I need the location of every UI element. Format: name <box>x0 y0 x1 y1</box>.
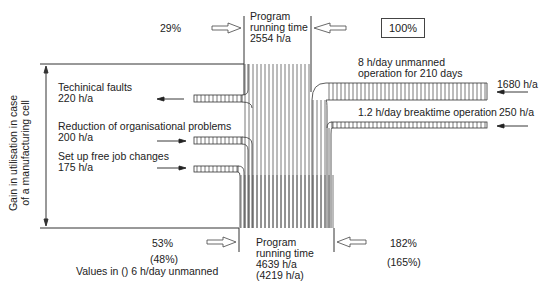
stream-unmanned-operation <box>312 83 487 228</box>
right-input-label-2: 1.2 h/day breaktime operation <box>358 106 497 118</box>
footnote: Values in () 6 h/day unmanned <box>76 265 218 277</box>
left-input-value-3: 175 h/a <box>58 161 93 173</box>
axis-label: Gain in utilisation in case of a manufac… <box>7 73 33 233</box>
bottom-left-percent: 53% <box>152 237 173 249</box>
right-input-value-1: 1680 h/a <box>497 78 538 90</box>
bottom-left-percent-alt: (48%) <box>150 253 178 265</box>
axis-label-line-2: of a manufacturing cell <box>19 73 31 233</box>
right-input-label-1b: operation for 210 days <box>358 67 463 79</box>
top-program-value: 2554 h/a <box>250 32 291 44</box>
left-input-value-1: 220 h/a <box>58 92 93 104</box>
bottom-right-percent: 182% <box>390 237 417 249</box>
axis-double-arrow <box>44 66 48 226</box>
axis-label-line-1: Gain in utilisation in case <box>7 73 19 233</box>
stream-setup-free-job-changes <box>194 166 244 228</box>
stream-breaktime-operation <box>327 122 487 228</box>
right-input-value-2: 250 h/a <box>499 106 534 118</box>
left-input-value-2: 200 h/a <box>58 131 93 143</box>
reference-percent-box: 100% <box>381 18 425 38</box>
bottom-program-value-alt: (4219 h/a) <box>256 269 304 281</box>
top-left-percent: 29% <box>160 22 181 34</box>
bottom-right-percent-alt: (165%) <box>387 256 421 268</box>
stream-technical-faults <box>194 64 252 108</box>
